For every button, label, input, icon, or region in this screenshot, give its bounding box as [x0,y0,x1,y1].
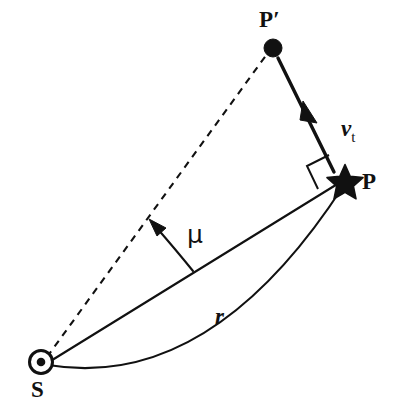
label-radius-r: r [215,305,224,328]
label-p: P [362,170,376,193]
label-s: S [31,378,44,401]
label-velocity-symbol: v [341,116,351,141]
point-p-prime-dot [264,39,282,57]
label-velocity-vt: vt [341,117,355,145]
orbital-geometry-figure: P′ P S vt r μ [0,0,401,412]
sun-symbol-center-dot [37,358,46,367]
label-velocity-subscript: t [351,129,355,145]
orbit-arc-s-to-p [48,185,344,368]
radius-line-s-to-p [49,183,339,362]
velocity-vector-arrowhead [300,101,317,123]
label-angle-mu: μ [187,222,203,247]
right-angle-marker-at-p [307,155,329,189]
angle-arc-mu-arrowhead [149,219,166,236]
label-p-prime: P′ [259,8,280,31]
figure-canvas [0,0,401,412]
